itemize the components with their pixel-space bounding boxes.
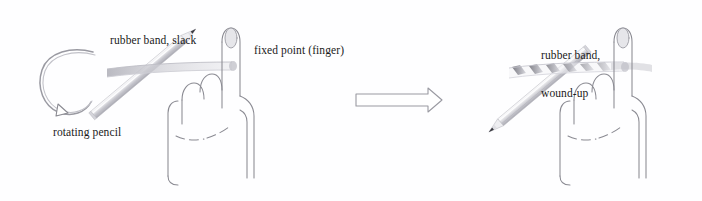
label-wound-line2: wound-up	[541, 87, 600, 100]
label-wound-line1: rubber band,	[541, 49, 600, 62]
panel-slack	[40, 25, 254, 185]
rotation-arrow-icon	[40, 50, 95, 116]
process-arrow-icon	[356, 88, 442, 112]
rubber-band-slack	[107, 61, 237, 77]
label-fixed-point: fixed point (finger)	[254, 44, 344, 57]
label-rubber-band-wound: rubber band, wound-up	[541, 24, 600, 124]
diagram-figure: rubber band, slack fixed point (finger) …	[0, 0, 702, 201]
hand-slack	[168, 28, 254, 185]
label-rubber-band-slack: rubber band, slack	[110, 34, 196, 47]
label-rotating-pencil: rotating pencil	[53, 126, 121, 139]
